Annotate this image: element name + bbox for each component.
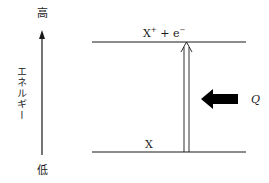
upper-level-label: X+ + e− — [143, 27, 185, 39]
axis-title: エネルギー — [15, 66, 25, 121]
energy-axis-arrow — [39, 30, 45, 155]
energy-input-arrow-icon — [201, 89, 238, 109]
axis-high-label: 高 — [37, 8, 48, 19]
energy-q-label: Q — [251, 94, 260, 105]
axis-low-label: 低 — [37, 165, 48, 176]
ionization-transition-arrow — [181, 42, 192, 152]
diagram-canvas — [0, 0, 269, 183]
lower-level-label: X — [145, 139, 153, 150]
